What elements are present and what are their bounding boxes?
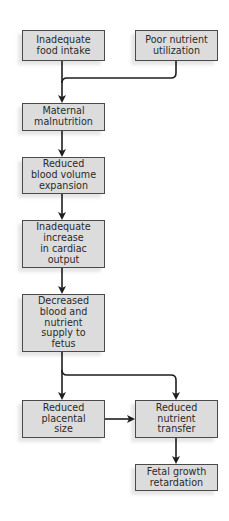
node-label: Inadequate increase in cardiac output — [36, 222, 91, 265]
node-label: Decreased blood and nutrient supply to f… — [38, 296, 89, 350]
node-label: Reduced nutrient transfer — [156, 403, 198, 435]
arrow-supply-to-transfer — [62, 370, 176, 398]
node-reduced-nutrient-transfer: Reduced nutrient transfer — [135, 400, 218, 438]
node-inadequate-food-intake: Inadequate food intake — [22, 30, 105, 61]
node-label: Inadequate food intake — [36, 35, 91, 57]
node-reduced-blood-volume-expansion: Reduced blood volume expansion — [22, 157, 105, 194]
flowchart: Inadequate food intake Poor nutrient uti… — [0, 0, 229, 521]
node-label: Fetal growth retardation — [147, 467, 207, 489]
node-label: Maternal malnutrition — [34, 106, 93, 128]
node-poor-nutrient-utilization: Poor nutrient utilization — [135, 30, 218, 61]
node-inadequate-cardiac-output: Inadequate increase in cardiac output — [22, 220, 105, 268]
node-label: Poor nutrient utilization — [145, 35, 207, 57]
connector-utilization-merge — [62, 61, 176, 83]
node-decreased-supply-to-fetus: Decreased blood and nutrient supply to f… — [22, 294, 105, 352]
node-label: Reduced blood volume expansion — [31, 159, 96, 191]
node-label: Reduced placental size — [41, 403, 85, 435]
node-maternal-malnutrition: Maternal malnutrition — [22, 103, 105, 131]
node-reduced-placental-size: Reduced placental size — [22, 400, 105, 438]
node-fetal-growth-retardation: Fetal growth retardation — [135, 464, 218, 491]
